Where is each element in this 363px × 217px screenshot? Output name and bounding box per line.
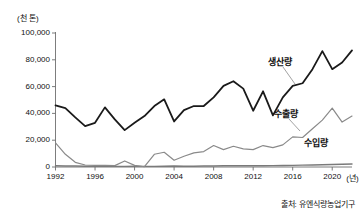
- x-tick-label: 2000: [115, 172, 155, 181]
- series-label-생산량: 생산량: [268, 55, 292, 68]
- source-note: 출처: 유엔식량농업기구: [281, 198, 355, 209]
- y-tick-label: 20,000: [2, 135, 50, 144]
- x-tick-label: 2008: [194, 172, 234, 181]
- series-label-수출량: 수출량: [274, 107, 298, 120]
- chart-container: (천 톤) 020,00040,00060,00080,000100,000 1…: [0, 0, 363, 217]
- x-axis-unit-label: (년): [346, 172, 358, 183]
- y-tick-label: 40,000: [2, 108, 50, 117]
- x-tick-label: 1992: [36, 172, 76, 181]
- x-tick-label: 2016: [273, 172, 313, 181]
- y-tick-label: 0: [2, 162, 50, 171]
- x-tick-label: 1996: [75, 172, 115, 181]
- y-tick-label: 80,000: [2, 55, 50, 64]
- line-chart-plot: [0, 0, 363, 217]
- y-tick-label: 60,000: [2, 82, 50, 91]
- series-label-수입량: 수입량: [304, 136, 328, 149]
- x-tick-label: 2012: [233, 172, 273, 181]
- y-tick-label: 100,000: [2, 28, 50, 37]
- x-tick-label: 2004: [154, 172, 194, 181]
